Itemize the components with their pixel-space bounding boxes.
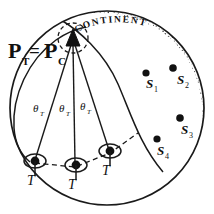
angle-label-2-symbol: θ [59,102,65,114]
diagram-canvas: CONTINENT P T = P C θ T θ T θ T T T T S [0,0,214,214]
apex-label-p-right: P [44,38,57,63]
angle-label-3: θ T [80,100,92,116]
apex-label-p-left: P [8,38,21,63]
source-label-3-subscript: 3 [189,131,193,140]
angle-label-2: θ T [59,102,71,118]
angle-label-3-symbol: θ [80,100,86,112]
source-label-1-subscript: 1 [154,85,158,94]
apex-label-equals: = [29,40,40,61]
source-label-1: S 1 [146,76,158,94]
source-label-2-symbol: S [177,72,184,87]
crust-arc-left-lower [14,128,30,162]
continent-label-textpath: CONTINENT [73,14,149,34]
source-label-4: S 4 [157,143,169,161]
ray-path-2 [73,45,75,163]
source-label-4-subscript: 4 [165,152,169,161]
source-label-2: S 2 [177,72,189,90]
angle-label-2-subscript: T [66,110,71,118]
figure-root: CONTINENT P T = P C θ T θ T θ T T T T S [0,0,214,214]
source-point-3-dot[interactable] [176,114,184,122]
source-label-4-symbol: S [157,143,164,158]
source-point-2-dot[interactable] [169,64,177,72]
angle-label-1-symbol: θ [33,102,39,114]
source-label-2-subscript: 2 [185,81,189,90]
apex-label-sub-c: C [58,55,66,67]
angle-label-1: θ T [33,102,45,118]
station-label-3: T [102,163,111,178]
source-label-1-symbol: S [146,76,153,91]
station-label-1: T [27,173,36,188]
angle-label-3-subscript: T [87,108,92,116]
apex-label-group: P T = P C [8,38,66,67]
source-point-4-dot[interactable] [153,135,160,142]
continent-label: CONTINENT [73,14,149,34]
station-label-2: T [68,177,77,192]
source-label-3: S 3 [181,122,193,140]
angle-label-1-subscript: T [40,110,45,118]
source-label-3-symbol: S [181,122,188,137]
